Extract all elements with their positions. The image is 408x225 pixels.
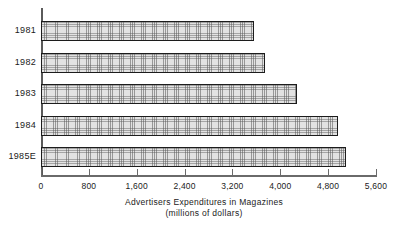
bar-fill bbox=[41, 53, 265, 73]
chart-caption-line2: (millions of dollars) bbox=[0, 208, 408, 218]
category-label-1981: 1981 bbox=[0, 25, 36, 35]
x-tick bbox=[328, 169, 329, 175]
x-tick-label: 4,800 bbox=[317, 181, 339, 191]
x-tick-label: 4,000 bbox=[269, 181, 291, 191]
x-tick bbox=[137, 169, 138, 175]
x-tick-label: 3,200 bbox=[221, 181, 243, 191]
x-tick-label: 0 bbox=[39, 181, 44, 191]
category-label-1983: 1983 bbox=[0, 88, 36, 98]
x-tick-label: 800 bbox=[81, 181, 96, 191]
category-label-1984: 1984 bbox=[0, 120, 36, 130]
bar-1985E bbox=[41, 147, 346, 167]
x-tick bbox=[185, 169, 186, 175]
x-tick-label: 5,600 bbox=[365, 181, 387, 191]
x-tick bbox=[376, 169, 377, 175]
bar-chart: 08001,6002,4003,2004,0004,8005,600 19811… bbox=[0, 0, 408, 225]
category-label-1982: 1982 bbox=[0, 57, 36, 67]
bar-1983 bbox=[41, 84, 297, 104]
x-tick-label: 2,400 bbox=[173, 181, 195, 191]
bar-1984 bbox=[41, 116, 338, 136]
x-tick-label: 1,600 bbox=[126, 181, 148, 191]
x-tick bbox=[89, 169, 90, 175]
category-label-1985E: 1985E bbox=[0, 151, 36, 161]
bar-fill bbox=[41, 21, 254, 41]
x-tick bbox=[280, 169, 281, 175]
bar-1982 bbox=[41, 53, 265, 73]
x-tick bbox=[41, 169, 42, 175]
x-tick bbox=[232, 169, 233, 175]
x-axis-line bbox=[41, 175, 377, 177]
bar-fill bbox=[41, 84, 297, 104]
bar-fill bbox=[41, 116, 338, 136]
chart-caption-line1: Advertisers Expenditures in Magazines bbox=[0, 197, 408, 207]
bar-fill bbox=[41, 147, 346, 167]
bar-1981 bbox=[41, 21, 254, 41]
